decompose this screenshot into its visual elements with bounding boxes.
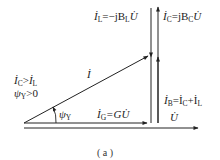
figure-caption: ( a ): [97, 147, 113, 159]
label-IB: İB=İC+İL: [163, 94, 202, 108]
angle-arc: [53, 107, 56, 123]
label-IG: İG=GU̇: [96, 108, 130, 122]
label-U: U̇: [170, 111, 179, 123]
condition-angle: ψY>0: [14, 87, 38, 101]
admittance-phasor-diagram: İL=−jBLU̇ İC=jBCU̇ İC>İL ψY>0 İ ψY İG=GU…: [0, 0, 220, 160]
label-IL: İL=−jBLU̇: [93, 10, 139, 24]
condition-current: İC>İL: [13, 74, 38, 88]
label-IC: İC=jBCU̇: [162, 10, 202, 24]
label-I: İ: [86, 68, 92, 80]
label-angle: ψY: [59, 108, 72, 122]
